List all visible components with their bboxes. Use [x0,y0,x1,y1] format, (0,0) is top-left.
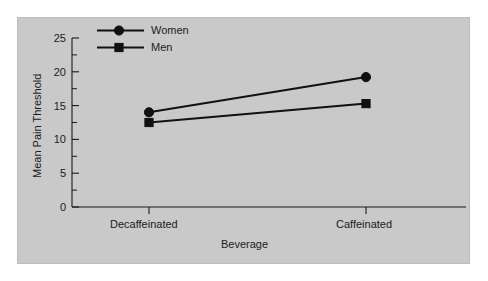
series-men [145,100,370,127]
x-tick-label-caffeinated: Caffeinated [336,219,392,230]
y-tick-label-5: 5 [44,168,66,179]
x-category-ticks [149,207,366,214]
x-axis-title: Beverage [221,239,268,250]
legend-circle-marker [114,26,123,35]
data-point-men-caffeinated [362,100,370,108]
y-axis-title: Mean Pain Threshold [32,74,43,178]
y-tick-label-10: 10 [44,134,66,145]
x-tick-label-decaffeinated: Decaffeinated [110,219,178,230]
data-point-men-decaffeinated [145,118,153,126]
legend-square-marker [115,43,123,51]
legend-glyphs [97,26,144,52]
y-minor-ticks [72,55,77,190]
y-tick-label-0: 0 [44,202,66,213]
plot-area [18,18,469,263]
data-point-women-caffeinated [361,73,370,82]
legend-label-women: Women [151,25,189,36]
y-tick-label-25: 25 [44,33,66,44]
y-tick-label-20: 20 [44,67,66,78]
figure-root: 25 20 15 10 5 0 Mean Pain Threshold Deca… [0,0,488,281]
y-tick-label-15: 15 [44,101,66,112]
legend-label-men: Men [151,42,172,53]
series-women [144,73,370,117]
data-point-women-decaffeinated [144,108,153,117]
chart-panel: 25 20 15 10 5 0 Mean Pain Threshold Deca… [17,17,470,264]
